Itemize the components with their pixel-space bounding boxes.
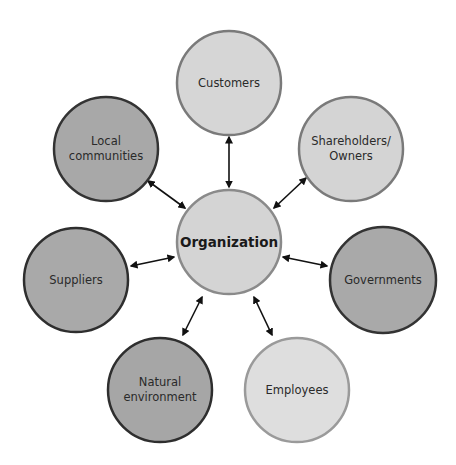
employees-label: Employees	[266, 383, 329, 397]
double-arrow-shareholders	[274, 178, 306, 208]
shareholders-label: Shareholders/	[311, 134, 391, 148]
shareholders-label: Owners	[329, 149, 373, 163]
stakeholder-diagram: CustomersShareholders/OwnersGovernmentsE…	[0, 0, 456, 465]
local-communities-label: communities	[69, 149, 143, 163]
center-node: Organization	[177, 190, 281, 294]
double-arrow-employees	[254, 297, 272, 335]
natural-environment-label: environment	[123, 390, 197, 404]
double-arrow-natural-environment	[183, 297, 202, 335]
stakeholder-node-shareholders: Shareholders/Owners	[299, 97, 403, 201]
stakeholder-node-governments: Governments	[330, 227, 436, 333]
organization-label: Organization	[180, 234, 278, 250]
governments-label: Governments	[344, 273, 422, 287]
stakeholder-node-customers: Customers	[177, 31, 281, 135]
customers-label: Customers	[198, 76, 260, 90]
stakeholder-node-suppliers: Suppliers	[24, 228, 128, 332]
double-arrow-local-communities	[148, 181, 185, 208]
double-arrow-governments	[283, 257, 327, 266]
stakeholder-node-employees: Employees	[245, 338, 349, 442]
stakeholder-node-natural-environment: Naturalenvironment	[108, 338, 212, 442]
stakeholder-node-local-communities: Localcommunities	[54, 97, 158, 201]
suppliers-label: Suppliers	[49, 273, 102, 287]
local-communities-label: Local	[91, 134, 121, 148]
natural-environment-label: Natural	[139, 375, 181, 389]
double-arrow-suppliers	[131, 257, 174, 266]
